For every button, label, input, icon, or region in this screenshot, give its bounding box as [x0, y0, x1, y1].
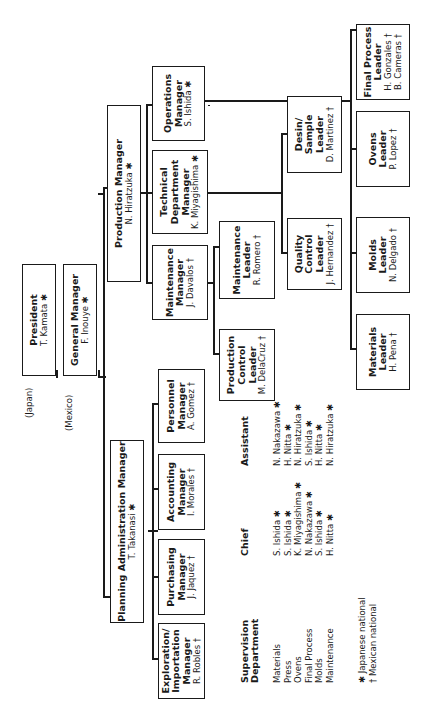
label-japan: (Japan)	[24, 388, 34, 418]
cell-chief: S. Ishida ✱	[283, 482, 294, 556]
node-title: Materials Leader	[368, 327, 389, 377]
cell-department: Ovens	[293, 628, 304, 683]
node-name: H. Gonzales † B. Cameras †	[384, 33, 403, 90]
cell-assistant: N. Hiratzuka ✱	[325, 401, 336, 466]
legend-japanese-national: ✱ Japanese national	[357, 597, 368, 683]
node-name: K. Miyagishima ✱	[191, 155, 201, 229]
node-name: T. Kamata ✱	[40, 294, 50, 346]
node-name: T. Takanasi ✱	[128, 504, 138, 560]
node-title: Molds Leader	[368, 237, 389, 274]
node-title: Desin/ Sample Leader	[294, 115, 326, 155]
connector	[208, 192, 281, 194]
node-title: Production Control Leader	[226, 336, 258, 394]
cell-chief: N. Nakazawa ✱	[304, 482, 315, 556]
header-assistant: Assistant	[240, 416, 250, 466]
node-title: General Manager	[70, 274, 81, 366]
connector	[56, 370, 58, 378]
header-supervision-department: Supervision Department	[240, 619, 261, 683]
cell-assistant: S. Ishida ✱	[304, 401, 315, 466]
node-name: D. Martinez †	[326, 107, 336, 163]
node-operations-manager: Operations Manager S. Ishida ✱	[152, 66, 205, 141]
column-chief: S. Ishida ✱ S. Ishida ✱ K. Miyagishima ✱…	[272, 482, 336, 556]
node-maintenance-leader: Maintenance Leader R. Romero †	[219, 221, 275, 299]
node-ovens-leader: Ovens Leader P. Lopez †	[356, 111, 410, 187]
node-title: Ovens Leader	[368, 131, 389, 168]
node-name: H. Pena †	[389, 332, 399, 371]
node-title: Maintenance Leader	[232, 226, 253, 295]
label-mexico: (Mexico)	[64, 395, 74, 431]
node-title: Technical Department Manager	[159, 160, 191, 224]
cell-assistant: N. Nakazawa ✱	[272, 401, 283, 466]
connector	[350, 30, 352, 350]
node-title: Accounting Manager	[166, 462, 187, 522]
connector	[152, 404, 154, 660]
node-design-sample-leader: Desin/ Sample Leader D. Martinez †	[287, 96, 342, 173]
connector	[281, 134, 283, 254]
node-title: Planning Administration Manager	[117, 441, 128, 621]
node-name: S. Ishida ✱	[184, 81, 194, 127]
node-title: Maintenance Manager	[165, 248, 186, 317]
cell-chief: S. Ishida ✱	[272, 482, 283, 556]
node-production-manager: Production Manager N. Hiratzuka ✱	[107, 105, 141, 282]
trunk	[103, 188, 105, 598]
header-chief: Chief	[240, 528, 250, 556]
cell-department: Molds	[314, 628, 325, 683]
node-general-manager: General Manager F. Inouye ✱	[63, 264, 97, 376]
node-name: F. Inouye ✱	[81, 296, 91, 344]
node-maintenance-manager: Maintenance Manager J. Davalos †	[152, 245, 208, 320]
connector	[146, 105, 148, 284]
cell-department: Press	[283, 628, 294, 683]
node-technical-department-manager: Technical Department Manager K. Miyagish…	[152, 150, 208, 234]
node-final-process-leader: Final Process Leader H. Gonzales † B. Ca…	[356, 24, 410, 100]
cell-chief: S. Ishida ✱	[314, 482, 325, 556]
node-name: P. Lopez †	[389, 128, 399, 169]
node-title: Purchasing Manager	[166, 547, 187, 607]
cell-chief: H. Nitta ✱	[325, 482, 336, 556]
node-title: Final Process Leader	[363, 26, 384, 97]
node-name: J. Jaquez †	[187, 555, 197, 598]
legend: ✱ Japanese national † Mexican national	[357, 597, 378, 683]
node-title: Production Manager	[114, 139, 125, 248]
node-personnel-manager: Personnel Manager A. Gomez †	[158, 369, 205, 443]
node-exploration-importation-manager: Exploration/ Importation Manager R. Robl…	[158, 623, 205, 699]
node-title: Operations Manager	[163, 74, 184, 133]
node-production-control-leader: Production Control Leader M. DelaCruz †	[219, 329, 275, 401]
org-chart: President T. Kamata ✱ General Manager F.…	[0, 0, 430, 716]
cell-assistant: H. Nitta ✱	[314, 401, 325, 466]
node-name: N. Delgado †	[389, 228, 399, 282]
node-name: R. Robles †	[193, 638, 203, 684]
node-planning-administration-manager: Planning Administration Manager T. Takan…	[110, 440, 144, 623]
column-assistant: N. Nakazawa ✱ H. Nitta ✱ N. Hiratzuka ✱ …	[272, 401, 336, 466]
node-materials-leader: Materials Leader H. Pena †	[356, 314, 410, 390]
cell-department: Maintenance	[325, 628, 336, 683]
node-purchasing-manager: Purchasing Manager J. Jaquez †	[158, 539, 205, 615]
node-name: M. DelaCruz †	[258, 336, 268, 394]
node-title: Quality Control Leader	[294, 234, 326, 273]
cell-assistant: N. Hiratzuka ✱	[293, 401, 304, 466]
connector	[208, 105, 210, 106]
cell-department: Materials	[272, 628, 283, 683]
connector	[213, 247, 215, 355]
cell-department: Final Process	[304, 628, 315, 683]
legend-mexican-national: † Mexican national	[368, 597, 379, 683]
node-accounting-manager: Accounting Manager I. Morales †	[158, 454, 205, 530]
node-name: J. Hernandez †	[326, 224, 336, 285]
cell-assistant: H. Nitta ✱	[283, 401, 294, 466]
node-quality-control-leader: Quality Control Leader J. Hernandez †	[287, 218, 342, 290]
column-department: Materials Press Ovens Final Process Mold…	[272, 628, 336, 683]
node-title: Personnel Manager	[166, 379, 187, 433]
connector	[98, 376, 106, 378]
node-name: N. Hiratzuka ✱	[125, 162, 135, 224]
node-name: I. Morales †	[187, 468, 197, 516]
node-molds-leader: Molds Leader N. Delgado †	[356, 217, 410, 293]
node-title: Exploration/ Importation Manager	[161, 629, 193, 694]
node-name: R. Romero †	[253, 235, 263, 286]
cell-chief: K. Miyagishima ✱	[293, 482, 304, 556]
node-president: President T. Kamata ✱	[22, 264, 56, 376]
node-title: President	[29, 294, 40, 346]
node-name: J. Davalos †	[186, 258, 196, 307]
node-name: A. Gomez †	[187, 382, 197, 430]
